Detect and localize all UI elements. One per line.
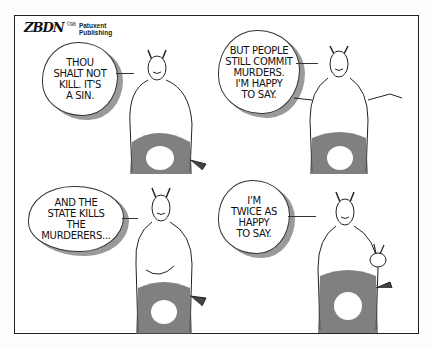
speech-text-3: AND THE STATE KILLS THE MURDERERS... [41,197,110,241]
speech-bubble-1: THOU SHALT NOT KILL. IT'S A SIN. [42,42,118,116]
devil-figure-2 [290,40,420,174]
signature-block: ZBDN ©98 Patuxent Publishing [24,20,112,36]
artist-signature: ZBDN [24,20,64,35]
speech-bubble-4: I'M TWICE AS HAPPY TO SAY. [218,180,290,254]
devil-figure-1 [118,44,218,174]
speech-text-2: BUT PEOPLE STILL COMMIT MURDERS. I'M HAP… [225,45,292,100]
devil-figure-4 [306,188,416,333]
speech-text-4: I'M TWICE AS HAPPY TO SAY. [231,195,277,239]
publisher-credit: Patuxent Publishing [79,22,112,36]
speech-bubble-3: AND THE STATE KILLS THE MURDERERS... [28,186,124,252]
copyright-mark: ©98 [67,21,76,27]
devil-figure-3 [126,184,226,334]
speech-bubble-2: BUT PEOPLE STILL COMMIT MURDERS. I'M HAP… [218,30,300,114]
speech-text-1: THOU SHALT NOT KILL. IT'S A SIN. [54,57,107,101]
